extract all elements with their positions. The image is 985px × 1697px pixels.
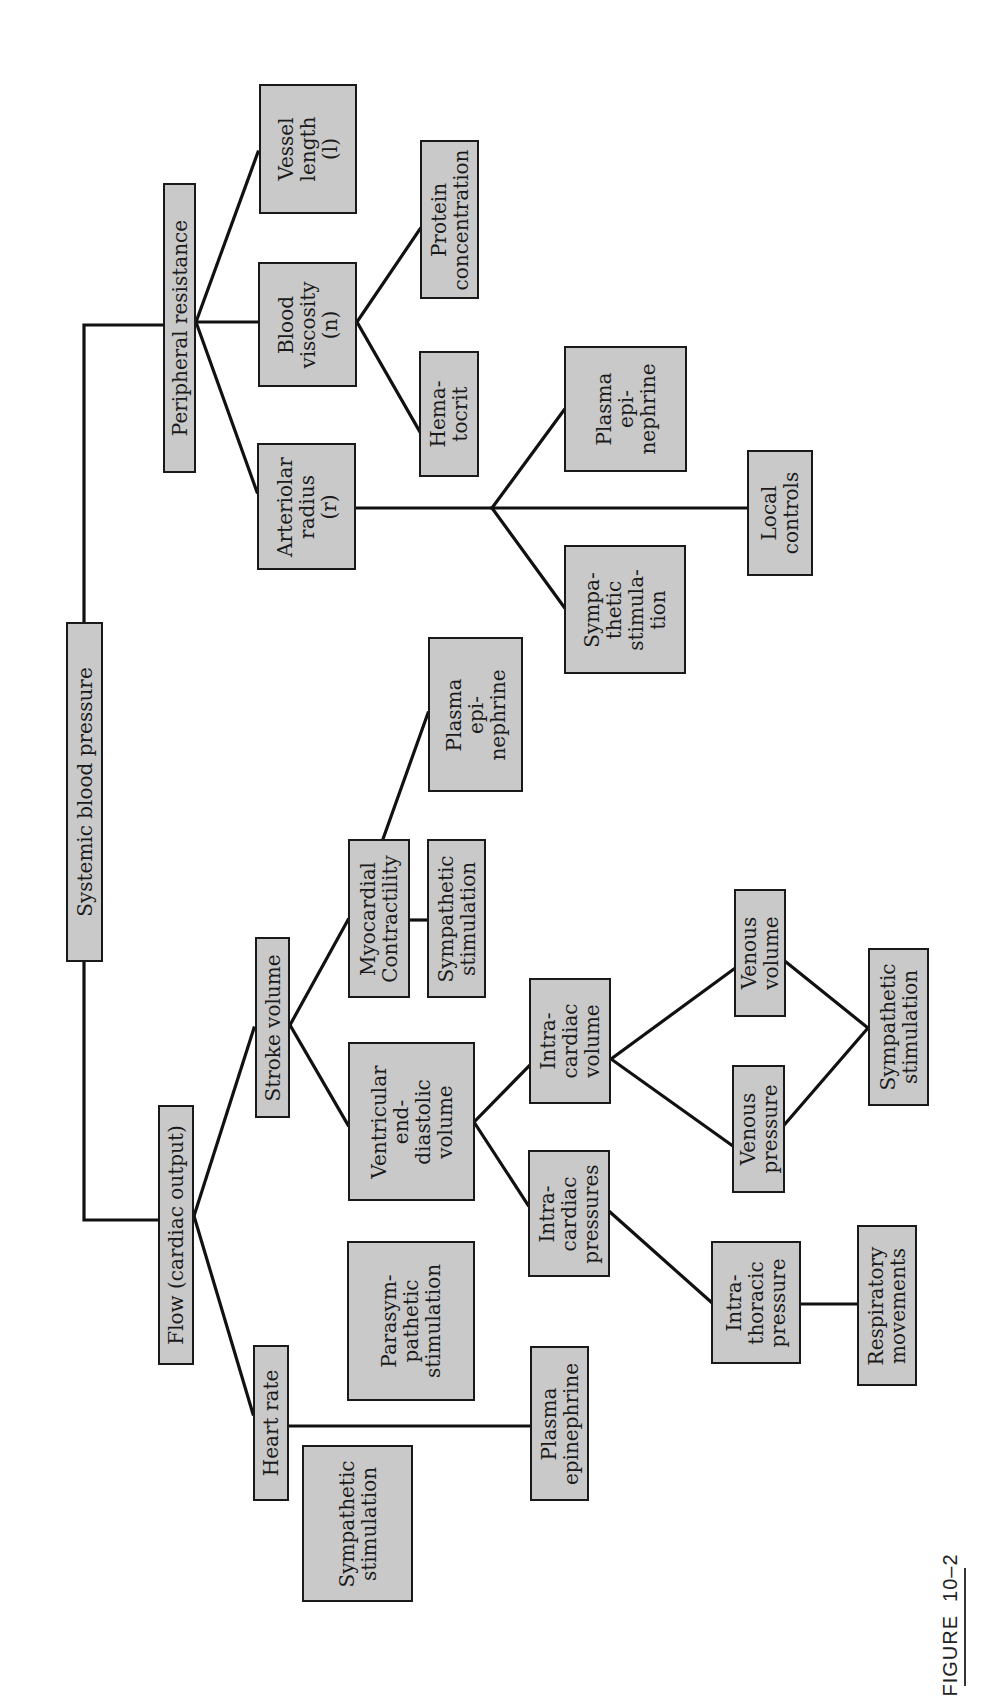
- node-plasma-epinephrine-heart-rate: Plasma epinephrine: [530, 1346, 589, 1501]
- node-flow-cardiac-output: Flow (cardiac output): [158, 1105, 194, 1365]
- node-peripheral-resistance: Peripheral resistance: [163, 183, 196, 473]
- node-sympathetic-stimulation-myocardial: Sympathetic stimulation: [427, 839, 486, 998]
- node-label: Sympathetic stimulation: [435, 855, 479, 982]
- node-plasma-epinephrine-myocardial: Plasma epi- nephrine: [428, 637, 523, 792]
- node-sympathetic-stimulation-arteriolar: Sympa- thetic stimula- tion: [564, 545, 686, 674]
- caption-rule: [964, 1568, 966, 1686]
- node-hematocrit: Hema- tocrit: [419, 351, 479, 477]
- node-label: Sympa- thetic stimula- tion: [581, 569, 669, 651]
- edge-pr-vessel: [196, 152, 258, 322]
- node-label: Intra- cardiac pressures: [536, 1164, 602, 1263]
- edge-visc-hematocrit: [357, 322, 420, 432]
- edge-sv-vedv: [290, 1025, 348, 1125]
- node-ventricular-end-diastolic-volume: Ventricular end- diastolic volume: [348, 1042, 475, 1201]
- node-label: Blood viscosity (n): [275, 281, 341, 368]
- node-intrathoracic-pressure: Intra- thoracic pressure: [711, 1241, 801, 1364]
- edge-pr-arteriolar: [196, 322, 257, 492]
- edge-vedv-icp: [474, 1122, 528, 1205]
- edge-icv-vv: [611, 969, 734, 1059]
- node-intracardiac-pressures: Intra- cardiac pressures: [528, 1150, 610, 1277]
- node-sympathetic-stimulation-venous: Sympathetic stimulation: [868, 948, 929, 1106]
- edge-vp-symp: [785, 1028, 868, 1124]
- node-label: Hema- tocrit: [427, 381, 471, 448]
- edge-bp-to-flow: [84, 960, 158, 1220]
- node-blood-viscosity: Blood viscosity (n): [258, 262, 357, 387]
- node-intracardiac-volume: Intra- cardiac volume: [529, 978, 611, 1104]
- node-myocardial-contractility: Myocardial Contractility: [348, 839, 410, 998]
- edge-flow-heart: [194, 1216, 253, 1414]
- node-label: Ventricular end- diastolic volume: [368, 1065, 456, 1178]
- node-label: Sympathetic stimulation: [336, 1460, 380, 1587]
- node-label: Systemic blood pressure: [74, 667, 96, 917]
- node-label: Protein concentration: [428, 149, 472, 290]
- node-label: Myocardial Contractility: [357, 855, 401, 983]
- figure-caption: FIGURE 10–2: [930, 1560, 970, 1690]
- node-label: Plasma epinephrine: [538, 1362, 582, 1484]
- node-label: Plasma epi- nephrine: [443, 669, 509, 760]
- node-label: Arteriolar radius (r): [274, 457, 340, 557]
- node-label: Sympathetic stimulation: [877, 963, 921, 1090]
- node-arteriolar-radius: Arteriolar radius (r): [257, 443, 356, 570]
- node-venous-pressure: Venous pressure: [732, 1065, 785, 1193]
- node-label: Intra- thoracic pressure: [723, 1258, 789, 1347]
- edge-vedv-icv: [474, 1066, 529, 1122]
- node-label: Venous volume: [738, 916, 782, 989]
- node-label: Flow (cardiac output): [165, 1125, 187, 1344]
- node-label: Heart rate: [260, 1370, 282, 1477]
- edge-icp-itp: [610, 1212, 711, 1302]
- edge-flow-stroke: [194, 1028, 254, 1216]
- node-venous-volume: Venous volume: [734, 889, 786, 1017]
- node-label: Intra- cardiac volume: [537, 1003, 603, 1078]
- node-plasma-epinephrine-arteriolar: Plasma epi- nephrine: [564, 346, 687, 472]
- node-stroke-volume: Stroke volume: [255, 937, 290, 1118]
- node-heart-rate: Heart rate: [253, 1345, 289, 1501]
- node-vessel-length: Vessel length (l): [259, 84, 357, 214]
- edge-visc-protein: [357, 229, 420, 322]
- edge-icv-vp: [611, 1059, 733, 1146]
- node-label: Stroke volume: [262, 954, 284, 1101]
- edge-sv-myo: [290, 920, 348, 1025]
- node-sympathetic-stimulation-heart-rate: Sympathetic stimulation: [302, 1445, 413, 1602]
- node-respiratory-movements: Respiratory movements: [857, 1225, 917, 1386]
- node-label: Parasym- pathetic stimulation: [378, 1264, 444, 1378]
- node-systemic-blood-pressure: Systemic blood pressure: [66, 622, 103, 962]
- node-label: Respiratory movements: [865, 1246, 909, 1365]
- node-protein-concentration: Protein concentration: [420, 140, 479, 299]
- edge-art-sympathetic: [492, 508, 564, 607]
- edge-art-plasma: [492, 410, 564, 508]
- node-label: Peripheral resistance: [169, 220, 191, 436]
- node-label: Venous pressure: [737, 1084, 781, 1173]
- node-label: Vessel length (l): [275, 117, 341, 182]
- node-label: Local controls: [758, 472, 802, 554]
- edge-vv-symp: [786, 962, 868, 1028]
- node-label: Plasma epi- nephrine: [593, 363, 659, 454]
- node-parasympathetic-stimulation: Parasym- pathetic stimulation: [347, 1241, 475, 1401]
- node-local-controls: Local controls: [747, 450, 813, 576]
- edge-myo-plasma: [383, 713, 428, 839]
- figure-caption-text: FIGURE 10–2: [939, 1553, 962, 1696]
- edge-bp-to-peripheral: [84, 325, 163, 622]
